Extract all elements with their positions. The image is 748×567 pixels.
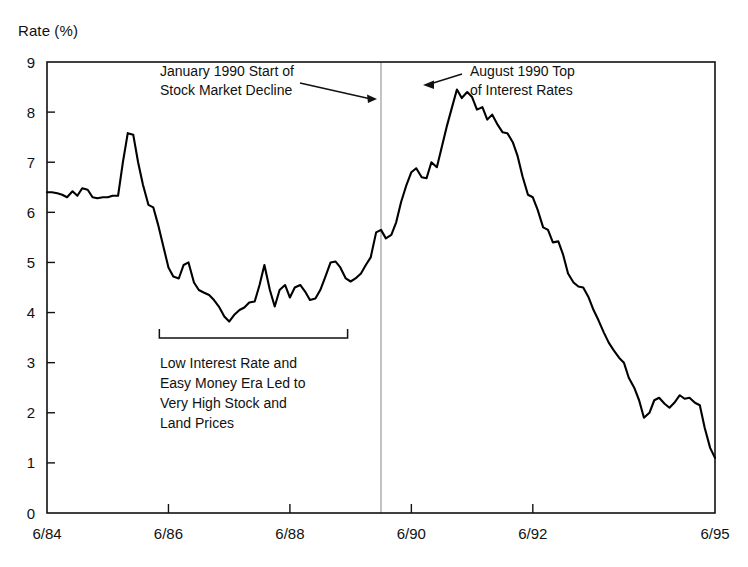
august-1990-annotation-line: of Interest Rates xyxy=(470,82,573,98)
low-rate-era-annotation-line: Land Prices xyxy=(160,415,234,431)
y-tick-label: 6 xyxy=(27,204,35,221)
y-tick-label: 4 xyxy=(27,304,35,321)
low-rate-era-annotation-line: Low Interest Rate and xyxy=(160,355,297,371)
y-tick-label: 1 xyxy=(27,454,35,471)
january-1990-annotation-line: January 1990 Start of xyxy=(160,63,294,79)
low-rate-era-bracket xyxy=(159,329,347,338)
low-rate-era-annotation-line: Easy Money Era Led to xyxy=(160,375,306,391)
y-tick-label: 7 xyxy=(27,154,35,171)
y-tick-label: 2 xyxy=(27,404,35,421)
august-1990-arrow xyxy=(430,74,462,84)
y-tick-label: 0 xyxy=(27,505,35,522)
august-1990-annotation-line: August 1990 Top xyxy=(470,63,575,79)
january-1990-annotation-line: Stock Market Decline xyxy=(160,82,292,98)
chart-plot-area: 0123456789 6/846/866/886/906/926/95 Janu… xyxy=(0,0,748,567)
y-tick-label: 5 xyxy=(27,254,35,271)
august-1990-arrowhead xyxy=(423,81,434,90)
january-1990-arrow xyxy=(300,83,371,99)
x-tick-label: 6/84 xyxy=(32,525,61,542)
x-tick-label: 6/86 xyxy=(154,525,183,542)
x-tick-label: 6/92 xyxy=(518,525,547,542)
y-tick-label: 9 xyxy=(27,54,35,71)
y-tick-label: 3 xyxy=(27,354,35,371)
january-1990-arrowhead xyxy=(367,95,377,104)
x-tick-label: 6/95 xyxy=(700,525,729,542)
x-tick-label: 6/90 xyxy=(397,525,426,542)
y-axis-ticks: 0123456789 xyxy=(27,54,55,522)
x-tick-label: 6/88 xyxy=(275,525,304,542)
chart-annotations: January 1990 Start ofStock Market Declin… xyxy=(159,63,575,431)
low-rate-era-annotation-line: Very High Stock and xyxy=(160,395,287,411)
interest-rate-chart: Rate (%) 0123456789 6/846/866/886/906/92… xyxy=(0,0,748,567)
y-tick-label: 8 xyxy=(27,104,35,121)
